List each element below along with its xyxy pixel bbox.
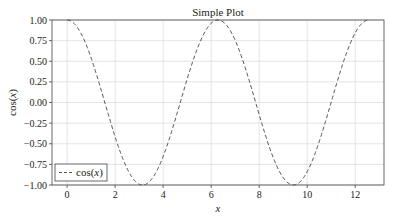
y-tick-label: 1.00 (30, 15, 48, 26)
chart-title: Simple Plot (192, 6, 244, 18)
y-tick-label: −0.75 (24, 159, 47, 170)
x-tick-label: 0 (65, 189, 70, 200)
y-tick-label: 0.75 (30, 35, 48, 46)
x-tick-label: 4 (161, 189, 166, 200)
x-tick-label: 2 (113, 189, 118, 200)
x-tick-label: 12 (350, 189, 360, 200)
grid-lines (52, 20, 384, 185)
legend: cos(x) (55, 164, 107, 181)
y-axis-ticks: 1.000.750.500.250.00−0.25−0.50−0.75−1.00 (24, 15, 52, 191)
legend-label: cos(x) (76, 166, 103, 179)
cosine-line-chart: 024681012 1.000.750.500.250.00−0.25−0.50… (0, 0, 393, 217)
x-tick-label: 8 (257, 189, 262, 200)
y-tick-label: 0.25 (30, 76, 48, 87)
x-tick-label: 6 (209, 189, 214, 200)
y-axis-label: cos(x) (6, 89, 19, 116)
x-tick-label: 10 (302, 189, 312, 200)
y-tick-label: −0.25 (24, 118, 47, 129)
y-tick-label: −0.50 (24, 138, 47, 149)
y-tick-label: 0.00 (30, 97, 48, 108)
x-axis-ticks: 024681012 (65, 185, 361, 200)
y-tick-label: 0.50 (30, 56, 48, 67)
x-axis-label: x (215, 202, 221, 214)
y-tick-label: −1.00 (24, 180, 47, 191)
